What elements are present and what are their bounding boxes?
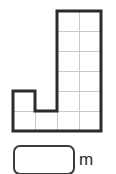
- figure-panel: m: [0, 0, 116, 174]
- unit-label: m: [79, 151, 93, 168]
- answer-row: m: [0, 141, 116, 174]
- grid-polygon-svg: [0, 0, 116, 140]
- answer-input[interactable]: [13, 145, 75, 174]
- grid-polygon-figure: [0, 0, 116, 140]
